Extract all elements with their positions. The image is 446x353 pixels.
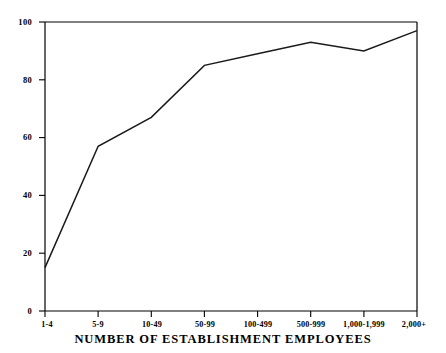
data-series-line	[45, 31, 417, 268]
ytick-label-100: 100	[6, 17, 32, 27]
ytick-label-40: 40	[6, 190, 32, 200]
ytick-label-60: 60	[6, 132, 32, 142]
xtick-label-2000-plus: 2,000+	[402, 320, 426, 329]
plot-canvas	[0, 0, 446, 353]
xtick-label-50-99: 50-99	[195, 320, 215, 329]
axis-frame	[45, 22, 417, 311]
xtick-label-500-999: 500-999	[297, 320, 326, 329]
ytick-label-0: 0	[6, 306, 32, 316]
xtick-label-1000-1999: 1,000-1,999	[343, 320, 385, 329]
line-chart-figure: 0 20 40 60 80 100 1-4 5-9 10-49 50-99 10…	[0, 0, 446, 353]
x-axis-ticks	[45, 311, 417, 317]
x-axis-title: NUMBER OF ESTABLISHMENT EMPLOYEES	[0, 332, 446, 347]
xtick-label-100-499: 100-499	[244, 320, 273, 329]
xtick-label-5-9: 5-9	[92, 320, 104, 329]
ytick-label-20: 20	[6, 248, 32, 258]
y-axis-ticks	[39, 22, 45, 311]
xtick-label-1-4: 1-4	[41, 320, 53, 329]
ytick-label-80: 80	[6, 75, 32, 85]
xtick-label-10-49: 10-49	[142, 320, 162, 329]
